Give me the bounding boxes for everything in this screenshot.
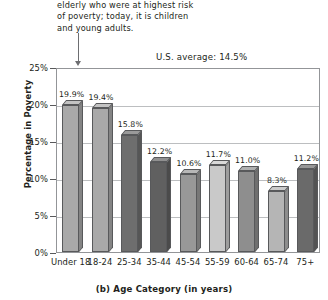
bar bbox=[209, 165, 226, 252]
bar-front-face bbox=[150, 162, 167, 252]
caption-leader-arrow-icon bbox=[75, 61, 81, 66]
y-axis-tick-label: 20% bbox=[16, 100, 48, 110]
bar bbox=[297, 169, 314, 252]
y-axis-tick-label: 0% bbox=[16, 248, 48, 258]
bar bbox=[268, 191, 285, 252]
bar-front-face bbox=[209, 165, 226, 252]
bar-front-face bbox=[180, 174, 197, 252]
bar bbox=[62, 105, 79, 252]
caption-line-2: of poverty; today, it is children bbox=[57, 11, 257, 22]
x-axis-title: (b) Age Category (in years) bbox=[0, 284, 328, 294]
y-axis-title: Percentage in Poverty bbox=[23, 59, 33, 209]
bar-front-face bbox=[62, 105, 79, 252]
bar bbox=[121, 135, 138, 252]
chart-caption: elderly who were at highest risk of pove… bbox=[57, 0, 257, 34]
caption-line-3: and young adults. bbox=[57, 23, 257, 34]
bar-front-face bbox=[92, 108, 109, 252]
y-axis-tick-label: 15% bbox=[16, 137, 48, 147]
bar-value-label: 15.8% bbox=[109, 120, 151, 129]
bar-front-face bbox=[268, 191, 285, 252]
bar-value-label: 10.6% bbox=[168, 159, 210, 168]
caption-leader-line bbox=[78, 33, 79, 63]
bar-value-label: 8.3% bbox=[256, 176, 298, 185]
bar-side-face bbox=[226, 161, 230, 252]
bar-side-face bbox=[285, 186, 289, 252]
bar-side-face bbox=[314, 164, 318, 252]
caption-line-1: elderly who were at highest risk bbox=[57, 0, 257, 11]
bar-value-label: 11.0% bbox=[227, 156, 269, 165]
us-average-annotation: U.S. average: 14.5% bbox=[156, 52, 247, 62]
x-axis-category-label: 75+ bbox=[285, 257, 325, 267]
bar bbox=[238, 171, 255, 252]
bar-value-label: 11.2% bbox=[285, 154, 327, 163]
bar bbox=[92, 108, 109, 252]
y-axis-tick-label: 10% bbox=[16, 174, 48, 184]
bar-value-label: 19.4% bbox=[80, 93, 122, 102]
bar-side-face bbox=[167, 157, 171, 252]
bar-front-face bbox=[121, 135, 138, 252]
bar bbox=[180, 174, 197, 252]
bar-value-label: 12.2% bbox=[139, 147, 181, 156]
y-axis-tick-label: 25% bbox=[16, 63, 48, 73]
y-axis-tick bbox=[50, 253, 56, 254]
bar-front-face bbox=[238, 171, 255, 252]
bar bbox=[150, 162, 167, 252]
bar-side-face bbox=[79, 100, 83, 252]
bar-side-face bbox=[197, 169, 201, 252]
bar-front-face bbox=[297, 169, 314, 252]
y-axis-tick-label: 5% bbox=[16, 211, 48, 221]
